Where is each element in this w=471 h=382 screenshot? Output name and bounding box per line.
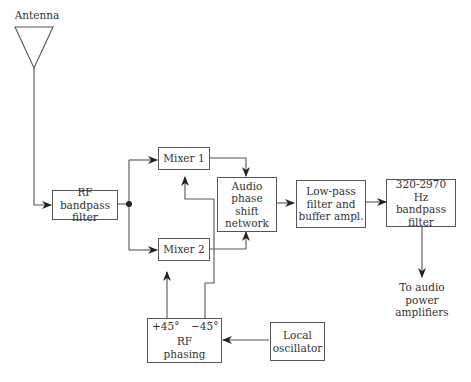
output-label: To audio power amplifiers	[384, 281, 460, 319]
mixer-1-block: Mixer 1	[158, 147, 210, 170]
rf-bandpass-filter-block: RF bandpass filter	[52, 190, 118, 220]
lowpass-filter-buffer-block: Low-pass filter and buffer ampl.	[296, 180, 366, 228]
audio-phase-shift-network-block: Audio phase shift network	[217, 177, 277, 232]
mixer-2-block: Mixer 2	[158, 238, 210, 261]
antenna-label: Antenna	[12, 9, 62, 22]
minus-45-port-label: −45°	[191, 320, 218, 332]
local-oscillator-block: Local oscillator	[270, 322, 325, 361]
plus-45-port-label: +45°	[152, 320, 179, 332]
antenna-icon	[15, 27, 53, 68]
hz-bandpass-filter-block: 320-2970 Hz bandpass filter	[386, 179, 456, 227]
junction-dot	[126, 201, 132, 207]
